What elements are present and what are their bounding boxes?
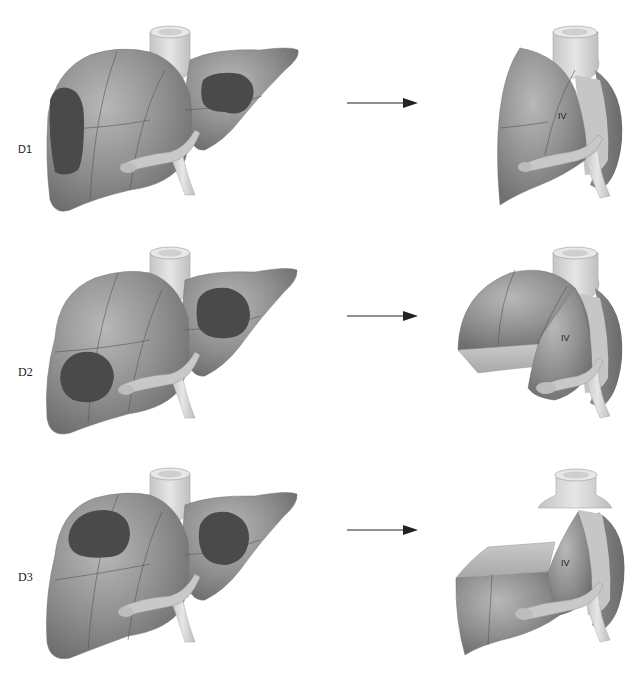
- tumor-right-inferior: [60, 352, 114, 402]
- right-arrow-icon: [345, 97, 420, 109]
- right-arrow-icon: [345, 524, 420, 536]
- tumor-left-lobe: [201, 73, 253, 114]
- segment-label-d2: IV: [561, 333, 570, 343]
- liver-after-d2: [450, 228, 640, 450]
- liver-before-d1: [0, 0, 320, 225]
- tumor-left-lobe: [199, 512, 249, 565]
- tumor-left-lobe: [197, 288, 251, 339]
- liver-before-d2: [0, 228, 320, 450]
- segment-label-d1: IV: [558, 111, 567, 121]
- row-d1: D1: [0, 0, 640, 225]
- liver-before-d3: [0, 450, 320, 678]
- row-d2: D2 IV: [0, 228, 640, 450]
- right-arrow-icon: [345, 310, 420, 322]
- tumor-right-lateral: [50, 88, 84, 175]
- segment-label-d3: IV: [561, 558, 570, 568]
- liver-after-d3: [450, 450, 640, 678]
- row-d3: D3 IV: [0, 450, 640, 678]
